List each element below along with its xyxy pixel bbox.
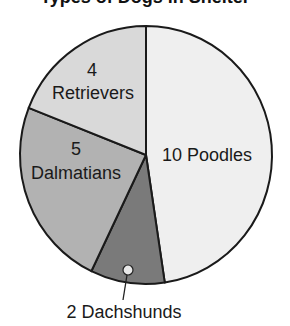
retrievers-name-label: Retrievers [52,83,134,103]
dachshunds-label: 2 Dachshunds [66,302,181,322]
pie-chart: 4 Retrievers 5 Dalmatians 10 Poodles 2 D… [0,0,290,326]
dalmatians-name-label: Dalmatians [31,163,121,183]
poodles-label: 10 Poodles [162,145,252,165]
leader-dot-icon [123,265,133,275]
retrievers-value-label: 4 [87,60,97,80]
dalmatians-value-label: 5 [71,139,81,159]
